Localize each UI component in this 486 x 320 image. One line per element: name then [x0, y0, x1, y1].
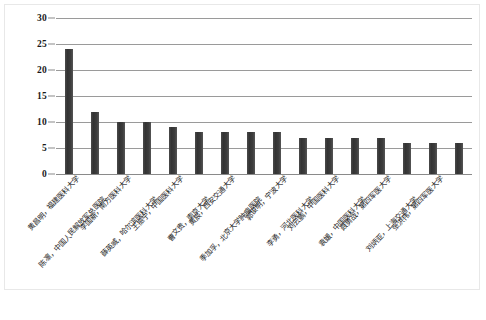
gridline-25: [56, 44, 472, 45]
y-axis-tick-label: 15: [37, 91, 47, 101]
bar: [403, 143, 411, 174]
bar: [117, 122, 125, 174]
gridline-15: [56, 96, 472, 97]
bar: [299, 138, 307, 174]
bar: [247, 132, 255, 174]
y-axis-tick-label: 30: [37, 13, 47, 23]
bar: [143, 122, 151, 174]
bar: [351, 138, 359, 174]
bar: [455, 143, 463, 174]
bar: [221, 132, 229, 174]
y-tick-mark-20: [48, 70, 55, 71]
bar: [195, 132, 203, 174]
bar: [325, 138, 333, 174]
y-axis-tick-label: 5: [42, 143, 47, 153]
x-axis-labels: 黄昌明，福建医科大学陈凛，中国人民解放军总医院李国新，南方医科大学薛英威，哈尔滨…: [56, 176, 472, 296]
figure-caption: [0, 300, 486, 314]
bar: [273, 132, 281, 174]
bar: [65, 49, 73, 174]
y-tick-mark-15: [48, 96, 55, 97]
x-axis-category-label: 郭俊明，宁波大学: [244, 175, 288, 222]
y-axis-tick-label: 0: [42, 169, 47, 179]
bar: [429, 143, 437, 174]
y-axis-tick-label: 25: [37, 39, 47, 49]
gridline-0: [56, 174, 472, 175]
y-tick-mark-0: [48, 174, 55, 175]
plot-area: 051015202530: [56, 18, 472, 174]
bar-chart-figure: 051015202530 黄昌明，福建医科大学陈凛，中国人民解放军总医院李国新，…: [0, 0, 486, 320]
gridline-30: [56, 18, 472, 19]
bar: [377, 138, 385, 174]
y-tick-mark-5: [48, 148, 55, 149]
y-tick-mark-25: [48, 44, 55, 45]
x-axis-category-label: 张洪伟，第四军医大学: [391, 175, 445, 232]
bar: [91, 112, 99, 174]
y-tick-mark-30: [48, 18, 55, 19]
bar: [169, 127, 177, 174]
y-axis-tick-label: 20: [37, 65, 47, 75]
x-axis-category-label: 黄辰，西安交通大学: [187, 175, 236, 227]
y-tick-mark-10: [48, 122, 55, 123]
y-axis-tick-label: 10: [37, 117, 47, 127]
gridline-20: [56, 70, 472, 71]
